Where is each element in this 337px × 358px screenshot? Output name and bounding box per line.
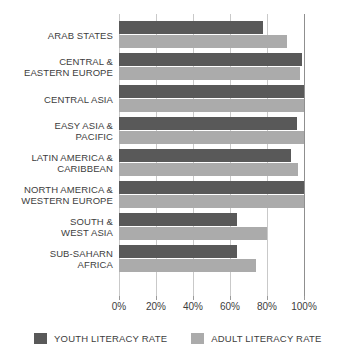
bar-adult-literacy xyxy=(119,163,298,176)
category-label: EASY ASIA & PACIFIC xyxy=(1,120,113,142)
tick-label: 20% xyxy=(139,301,173,313)
plot-area xyxy=(119,14,304,296)
bar-group xyxy=(119,20,304,52)
bar-youth-literacy xyxy=(119,245,237,258)
category-label: NORTH AMERICA & WESTERN EUROPE xyxy=(1,184,113,206)
tick-mark xyxy=(156,296,157,300)
category-label: CENTRAL ASIA xyxy=(1,94,113,105)
tick-label: 40% xyxy=(176,301,210,313)
tick-mark xyxy=(119,296,120,300)
bar-adult-literacy xyxy=(119,67,300,80)
legend-swatch-youth xyxy=(34,333,47,344)
tick-mark xyxy=(230,296,231,300)
tick-label: 100% xyxy=(287,301,321,313)
category-label: SOUTH & WEST ASIA xyxy=(1,216,113,238)
bar-youth-literacy xyxy=(119,53,302,66)
gridline-100 xyxy=(304,14,305,296)
tick-label: 60% xyxy=(213,301,247,313)
bar-group xyxy=(119,84,304,116)
legend-item-youth: YOUTH LITERACY RATE xyxy=(34,333,167,344)
legend-swatch-adult xyxy=(191,333,204,344)
tick-label: 80% xyxy=(250,301,284,313)
bar-youth-literacy xyxy=(119,117,297,130)
category-label: LATIN AMERICA & CARIBBEAN xyxy=(1,152,113,174)
bar-adult-literacy xyxy=(119,99,304,112)
legend-label-adult: ADULT LITERACY RATE xyxy=(211,333,321,344)
category-label: ARAB STATES xyxy=(1,30,113,41)
bar-youth-literacy xyxy=(119,181,304,194)
category-label: CENTRAL & EASTERN EUROPE xyxy=(1,56,113,78)
bar-group xyxy=(119,244,304,276)
bar-adult-literacy xyxy=(119,131,304,144)
bar-adult-literacy xyxy=(119,195,304,208)
chart-legend: YOUTH LITERACY RATE ADULT LITERACY RATE xyxy=(34,330,314,346)
category-axis-labels: ARAB STATESCENTRAL & EASTERN EUROPECENTR… xyxy=(0,14,113,296)
literacy-rate-bar-chart: ARAB STATESCENTRAL & EASTERN EUROPECENTR… xyxy=(0,0,337,358)
bar-youth-literacy xyxy=(119,213,237,226)
legend-item-adult: ADULT LITERACY RATE xyxy=(191,333,321,344)
bar-group xyxy=(119,148,304,180)
category-label: SUB-SAHARN AFRICA xyxy=(1,248,113,270)
tick-label: 0% xyxy=(102,301,136,313)
x-axis-ticks: 0%20%40%60%80%100% xyxy=(119,296,304,314)
bar-youth-literacy xyxy=(119,85,304,98)
bar-adult-literacy xyxy=(119,35,287,48)
legend-label-youth: YOUTH LITERACY RATE xyxy=(54,333,167,344)
bar-youth-literacy xyxy=(119,21,263,34)
bar-group xyxy=(119,212,304,244)
bar-youth-literacy xyxy=(119,149,291,162)
tick-mark xyxy=(193,296,194,300)
tick-mark xyxy=(304,296,305,300)
bar-adult-literacy xyxy=(119,259,256,272)
bar-group xyxy=(119,180,304,212)
tick-mark xyxy=(267,296,268,300)
bar-group xyxy=(119,52,304,84)
bar-adult-literacy xyxy=(119,227,267,240)
bar-group xyxy=(119,116,304,148)
